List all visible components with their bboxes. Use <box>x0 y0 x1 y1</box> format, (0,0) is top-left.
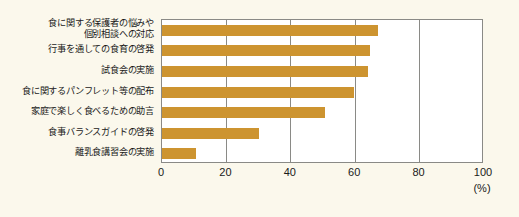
x-tick-label: 100 <box>474 166 492 178</box>
plot-area <box>161 19 483 163</box>
bar <box>162 148 196 159</box>
x-tick-label: 20 <box>219 166 231 178</box>
bar <box>162 66 368 77</box>
x-axis-unit-label: (%) <box>473 182 490 194</box>
bar <box>162 87 354 98</box>
category-label: 食事バランスガイドの啓発 <box>0 127 154 138</box>
bar <box>162 128 259 139</box>
x-tick-label: 80 <box>412 166 424 178</box>
category-label: 行事を通しての食育の啓発 <box>0 44 154 55</box>
bar <box>162 107 325 118</box>
category-label: 離乳食講習会の実施 <box>0 147 154 158</box>
gridline <box>419 20 420 162</box>
x-tick-label: 60 <box>348 166 360 178</box>
bar <box>162 45 370 56</box>
x-tick-label: 0 <box>158 166 164 178</box>
bar-chart-figure: 食に関する保護者の悩みや 個別相談への対応 行事を通しての食育の啓発 試食会の実… <box>0 0 519 217</box>
bar <box>162 25 378 36</box>
x-tick-label: 40 <box>284 166 296 178</box>
category-label: 試食会の実施 <box>0 65 154 76</box>
category-label: 家庭で楽しく食べるための助言 <box>0 106 154 117</box>
category-label: 食に関するパンフレット等の配布 <box>0 86 154 97</box>
category-label: 食に関する保護者の悩みや 個別相談への対応 <box>0 18 154 40</box>
x-axis: 020406080100 (%) <box>0 166 519 206</box>
gridline <box>355 20 356 162</box>
category-labels: 食に関する保護者の悩みや 個別相談への対応 行事を通しての食育の啓発 試食会の実… <box>0 19 158 163</box>
